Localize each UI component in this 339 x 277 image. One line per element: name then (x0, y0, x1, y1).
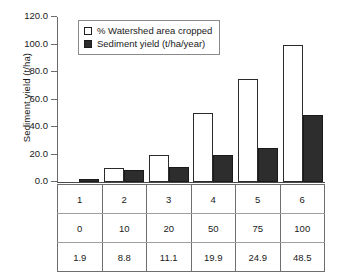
table-cell: 50 (191, 214, 236, 243)
table-cell: 10 (102, 214, 147, 243)
bar-sediment (79, 179, 99, 182)
y-axis-tick-label: 0.0 (35, 175, 48, 186)
bar-sediment (169, 167, 189, 182)
table-cell: 24.9 (236, 243, 281, 272)
table-cell: 48.5 (280, 243, 325, 272)
y-axis-tick-label: 80.0 (30, 65, 49, 76)
bar-cropped (283, 45, 303, 183)
table-row: 123456 (58, 185, 325, 214)
bar-group (236, 17, 281, 182)
table-cell: 5 (236, 185, 281, 214)
bar-cropped (104, 168, 124, 182)
y-axis-tick-label: 120.0 (24, 10, 48, 21)
y-axis-tick-label: 40.0 (30, 120, 49, 131)
table-row: 010205075100 (58, 214, 325, 243)
bar-sediment (303, 115, 323, 182)
bar-cropped (193, 113, 213, 182)
bar-sediment (258, 148, 278, 182)
bar-sediment (124, 170, 144, 182)
bar-cropped (149, 155, 169, 183)
table-cell: 4 (191, 185, 236, 214)
table-cell: 0 (58, 214, 103, 243)
legend-item-sediment: Sediment yield (t/ha/year) (84, 37, 212, 50)
table-cell: 100 (280, 214, 325, 243)
table-cell: 75 (236, 214, 281, 243)
data-table: 1234560102050751001.98.811.119.924.948.5 (57, 184, 325, 272)
table-cell: 19.9 (191, 243, 236, 272)
bar-cropped (238, 79, 258, 182)
legend-label-cropped: % Watershed area cropped (97, 25, 212, 36)
table-cell: 6 (280, 185, 325, 214)
y-axis-tick-label: 20.0 (30, 148, 49, 159)
x-axis-line (57, 182, 325, 183)
table-cell: 1.9 (58, 243, 103, 272)
bar-sediment (213, 155, 233, 182)
table-cell: 20 (147, 214, 192, 243)
legend: % Watershed area cropped Sediment yield … (78, 20, 220, 55)
figure-bar-chart-sediment-yield: Sediment yield (t/ha) 0.020.040.060.080.… (0, 0, 339, 277)
y-axis-tick-label: 100.0 (24, 38, 48, 49)
table-row: 1.98.811.119.924.948.5 (58, 243, 325, 272)
legend-label-sediment: Sediment yield (t/ha/year) (97, 38, 205, 49)
legend-swatch-cropped-icon (84, 27, 92, 35)
table-cell: 1 (58, 185, 103, 214)
table-cell: 8.8 (102, 243, 147, 272)
table-cell: 11.1 (147, 243, 192, 272)
legend-item-cropped: % Watershed area cropped (84, 24, 212, 37)
legend-swatch-sediment-icon (84, 40, 92, 48)
table-cell: 3 (147, 185, 192, 214)
y-axis-tick-label: 60.0 (30, 93, 49, 104)
table-cell: 2 (102, 185, 147, 214)
bar-group (280, 17, 325, 182)
